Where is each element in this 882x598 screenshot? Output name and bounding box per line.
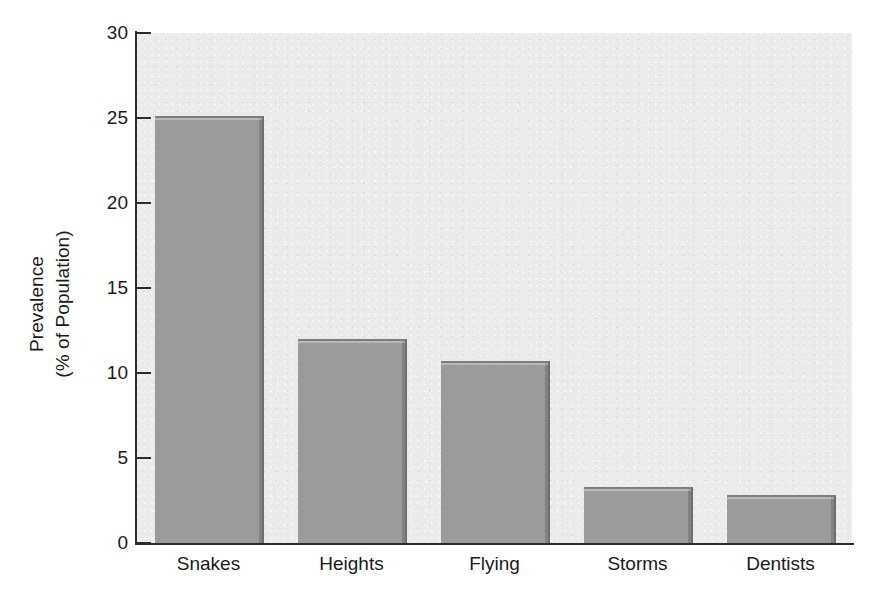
y-tick-mark <box>137 372 151 374</box>
bar-chart-figure: Prevalence (% of Population) 05101520253… <box>0 0 882 598</box>
x-tick-label-flying: Flying <box>415 553 575 575</box>
bar-heights <box>298 339 407 543</box>
y-tick-label: 20 <box>36 192 128 214</box>
bar-snakes <box>155 116 264 543</box>
y-tick-mark <box>137 202 151 204</box>
y-axis-tick-labels: 051015202530 <box>20 0 128 598</box>
bar-flying <box>441 361 550 543</box>
y-tick-label: 10 <box>36 362 128 384</box>
y-tick-mark <box>137 457 151 459</box>
y-tick-mark <box>137 542 151 544</box>
x-tick-label-storms: Storms <box>558 553 718 575</box>
y-tick-label: 5 <box>36 447 128 469</box>
y-tick-label: 25 <box>36 107 128 129</box>
y-tick-mark <box>137 117 151 119</box>
y-tick-label: 0 <box>36 532 128 554</box>
y-tick-mark <box>137 287 151 289</box>
x-axis-line <box>135 543 854 545</box>
bar-dentists <box>727 495 836 543</box>
y-tick-label: 30 <box>36 22 128 44</box>
plot-area <box>137 33 852 543</box>
y-tick-label: 15 <box>36 277 128 299</box>
y-tick-mark <box>137 32 151 34</box>
bar-storms <box>584 487 693 543</box>
x-tick-label-dentists: Dentists <box>701 553 861 575</box>
x-tick-label-heights: Heights <box>272 553 432 575</box>
x-tick-label-snakes: Snakes <box>129 553 289 575</box>
